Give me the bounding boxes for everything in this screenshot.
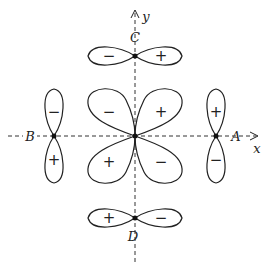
point-label-A: A xyxy=(230,129,240,144)
sign-D-right: − xyxy=(155,209,168,227)
sign-C-right: + xyxy=(155,47,168,65)
point-label-D: D xyxy=(127,229,139,244)
lobe-pair-C: C − + xyxy=(88,30,182,66)
sign-center-ur: + xyxy=(155,103,168,121)
sign-C-left: − xyxy=(103,47,116,65)
sign-B-top: − xyxy=(48,103,61,121)
sign-B-bottom: + xyxy=(48,151,61,169)
point-label-C: C xyxy=(130,30,140,45)
sign-D-left: + xyxy=(103,209,116,227)
sign-center-ul: − xyxy=(103,103,116,121)
point-label-B: B xyxy=(24,129,35,144)
sign-center-ll: + xyxy=(103,153,116,171)
orbital-diagram: y x − + + − C − + D + − A + − xyxy=(0,0,270,265)
sign-center-lr: − xyxy=(155,153,168,171)
sign-A-bottom: − xyxy=(210,151,223,169)
y-axis-label: y xyxy=(141,9,150,24)
x-axis-label: x xyxy=(253,141,261,156)
sign-A-top: + xyxy=(210,103,223,121)
